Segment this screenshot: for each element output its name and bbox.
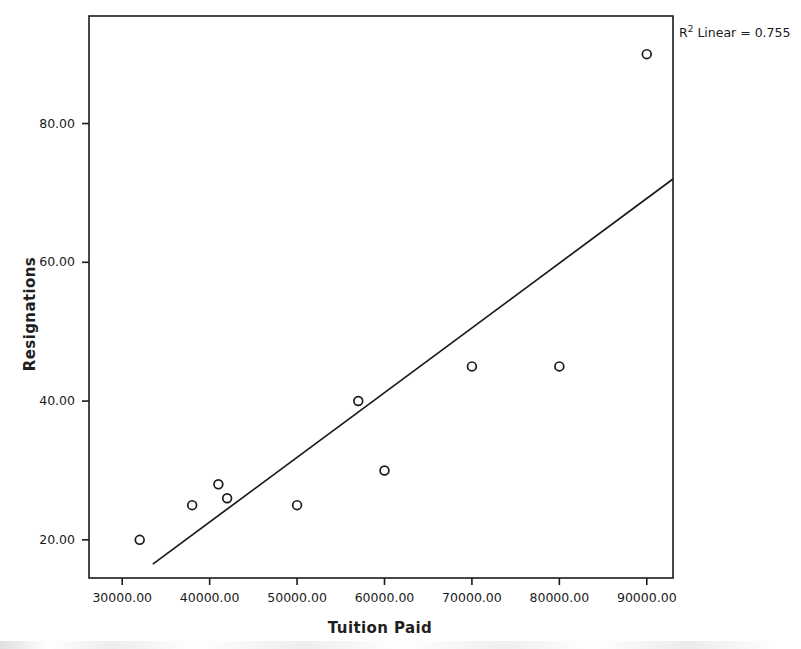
x-tick-label: 50000.00 bbox=[252, 590, 342, 605]
plot-canvas bbox=[0, 0, 801, 649]
scan-artifact bbox=[0, 641, 801, 649]
x-tick-label: 80000.00 bbox=[514, 590, 604, 605]
y-tick-label: 20.00 bbox=[5, 532, 75, 547]
y-tick-label: 60.00 bbox=[5, 254, 75, 269]
y-tick-label: 80.00 bbox=[5, 116, 75, 131]
y-tick-label: 40.00 bbox=[5, 393, 75, 408]
x-tick-label: 60000.00 bbox=[339, 590, 429, 605]
scatter-plot-figure: 30000.0040000.0050000.0060000.0070000.00… bbox=[0, 0, 801, 649]
x-tick-label: 70000.00 bbox=[427, 590, 517, 605]
x-tick-label: 40000.00 bbox=[165, 590, 255, 605]
x-tick-label: 90000.00 bbox=[602, 590, 692, 605]
r-squared-prefix: R bbox=[679, 25, 688, 40]
x-axis-title: Tuition Paid bbox=[0, 619, 760, 637]
y-axis-title: Resignations bbox=[21, 214, 39, 414]
r-squared-text: Linear = 0.755 bbox=[693, 25, 790, 40]
x-tick-label: 30000.00 bbox=[77, 590, 167, 605]
plot-frame bbox=[89, 16, 673, 578]
r-squared-annotation: R2 Linear = 0.755 bbox=[679, 24, 790, 40]
